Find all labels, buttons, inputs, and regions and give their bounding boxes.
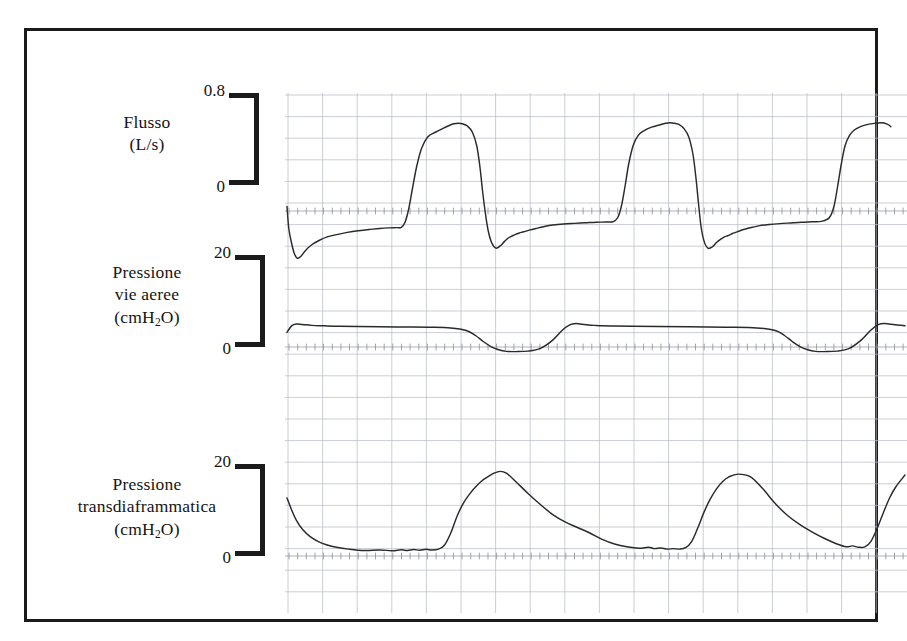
figure-frame: Flusso (L/s) Pressione vie aeree (cmH2O)… (24, 28, 878, 622)
time-tick-marks (285, 208, 907, 560)
scalebar-airway-pressure: 20 0 (229, 255, 265, 347)
panel-label-line: Pressione (32, 473, 262, 495)
scalebar-flow: 0.8 0 (223, 93, 259, 185)
scalebar-vertical (260, 255, 265, 347)
scale-value-bottom: 0 (217, 177, 226, 197)
scalebar-vertical (260, 464, 265, 556)
trace-pressione-transdiaframmatica (287, 471, 905, 550)
panel-label-line: Pressione (57, 261, 237, 283)
scale-value-top: 20 (214, 452, 231, 472)
recording-chart (285, 93, 907, 613)
scalebar-bottom-tick (229, 180, 259, 185)
traces (287, 123, 905, 551)
panel-label-flow: Flusso (L/s) (57, 111, 237, 156)
panel-label-transdiaphragmatic-pressure: Pressione transdiaframmatica (cmH2O) (32, 473, 262, 541)
scalebar-bottom-tick (235, 551, 265, 556)
scale-value-top: 0.8 (204, 81, 225, 101)
panel-label-line: Flusso (57, 111, 237, 133)
trace-pressione-vie-aeree (287, 324, 905, 352)
grid-lines (285, 93, 907, 613)
panel-label-unit: (cmH2O) (32, 518, 262, 541)
scalebar-bottom-tick (235, 342, 265, 347)
scale-value-top: 20 (214, 243, 231, 263)
scale-value-bottom: 0 (223, 548, 232, 568)
scale-value-bottom: 0 (223, 339, 232, 359)
panel-label-airway-pressure: Pressione vie aeree (cmH2O) (57, 261, 237, 329)
waveform-canvas (285, 93, 907, 613)
panel-label-unit: (cmH2O) (57, 306, 237, 329)
scalebar-vertical (254, 93, 259, 185)
panel-label-line: vie aeree (57, 283, 237, 305)
panel-label-line: transdiaframmatica (32, 495, 262, 517)
trace-flusso (287, 123, 891, 259)
scalebar-transdiaphragmatic-pressure: 20 0 (229, 464, 265, 556)
panel-label-line: (L/s) (57, 133, 237, 155)
